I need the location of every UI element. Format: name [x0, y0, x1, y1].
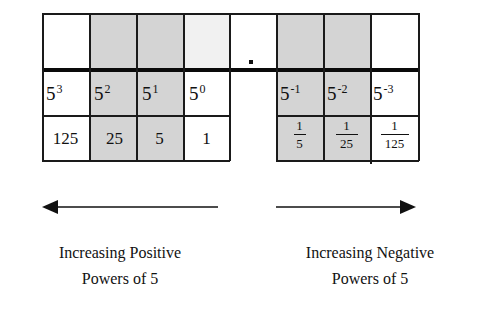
- negative-powers-label: Increasing Negative Powers of 5: [260, 240, 480, 292]
- right-arrow-icon: [276, 200, 416, 214]
- positive-powers-label: Increasing Positive Powers of 5: [10, 240, 230, 292]
- left-arrow-icon: [42, 200, 218, 214]
